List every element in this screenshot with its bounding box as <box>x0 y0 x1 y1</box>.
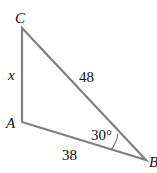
vertex-c-label: C <box>15 10 26 26</box>
angle-b-arc <box>111 134 118 150</box>
triangle-abc <box>22 28 146 160</box>
side-ca-label: x <box>7 67 15 83</box>
angle-b-label: 30° <box>91 127 112 143</box>
side-cb-label: 48 <box>79 69 94 85</box>
vertex-a-label: A <box>5 115 16 131</box>
vertex-b-label: B <box>149 154 157 170</box>
triangle-diagram: C A B x 48 38 30° <box>0 0 157 173</box>
side-ab-label: 38 <box>62 147 77 163</box>
